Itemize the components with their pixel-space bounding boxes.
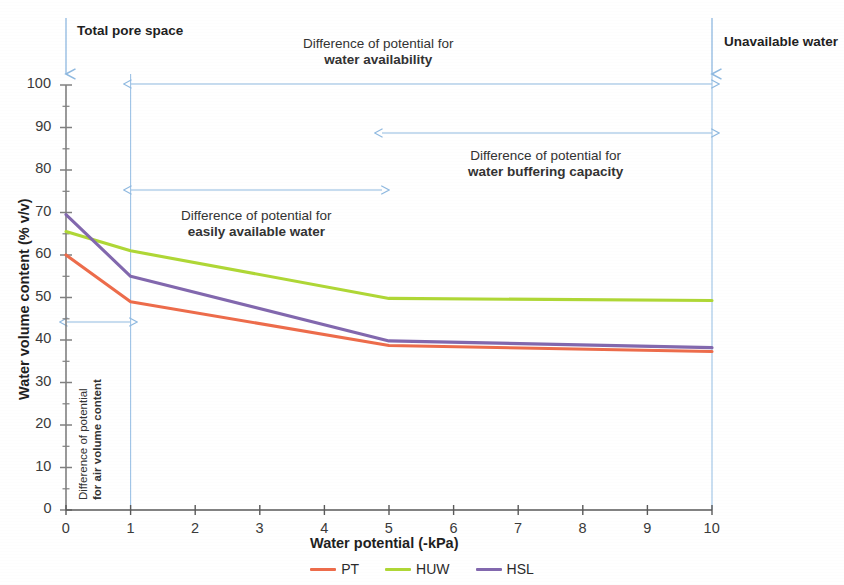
- y-tick-label: 10: [35, 458, 51, 474]
- annotation-water-availability-line2: water availability: [303, 52, 454, 68]
- annotation-water-buffering-capacity-line1: Difference of potential for: [468, 148, 623, 164]
- legend-label: HSL: [507, 561, 534, 577]
- legend-item-huw[interactable]: HUW: [385, 561, 449, 577]
- x-tick-label: 10: [704, 520, 720, 536]
- x-axis-title: Water potential (-kPa): [310, 535, 459, 553]
- annotation-easily-available-water-line2: easily available water: [181, 224, 332, 240]
- data-series-group: [66, 215, 712, 352]
- legend-label: HUW: [416, 561, 449, 577]
- legend-label: PT: [341, 561, 359, 577]
- legend-swatch-pt: [310, 568, 336, 571]
- x-tick-label: 8: [579, 520, 587, 536]
- annotation-water-availability: Difference of potential for water availa…: [303, 36, 454, 69]
- x-tick-label: 0: [62, 520, 70, 536]
- x-tick-label: 5: [385, 520, 393, 536]
- x-tick-label: 6: [449, 520, 457, 536]
- y-tick-label: 30: [35, 373, 51, 389]
- x-tick-label: 3: [256, 520, 264, 536]
- y-tick-label: 100: [27, 75, 51, 91]
- legend-item-hsl[interactable]: HSL: [476, 561, 534, 577]
- x-tick-label: 7: [514, 520, 522, 536]
- annotation-easily-available-water-line1: Difference of potential for: [181, 208, 332, 224]
- annotation-air-volume-content: Difference of potential for air volume c…: [76, 379, 105, 500]
- y-tick-label: 0: [44, 500, 52, 516]
- annotation-total-pore-space: Total pore space: [77, 23, 183, 39]
- annotation-air-volume-content-line1: Difference of potential: [76, 379, 90, 500]
- chart-figure: Water volume content (% v/v) Water poten…: [0, 0, 844, 585]
- legend-item-pt[interactable]: PT: [310, 561, 359, 577]
- y-tick-label: 20: [35, 415, 51, 431]
- annotation-water-buffering-capacity: Difference of potential for water buffer…: [468, 148, 623, 181]
- chart-canvas: [0, 0, 844, 585]
- x-tick-label: 2: [191, 520, 199, 536]
- x-axis: [66, 505, 712, 515]
- y-axis: [60, 85, 72, 510]
- chart-legend: PTHUWHSL: [0, 561, 844, 577]
- x-tick-label: 9: [643, 520, 651, 536]
- y-axis-title: Water volume content (% v/v): [16, 198, 34, 400]
- y-tick-label: 40: [35, 330, 51, 346]
- annotation-water-buffering-capacity-line2: water buffering capacity: [468, 164, 623, 180]
- annotation-unavailable-water: Unavailable water: [724, 34, 838, 50]
- annotation-water-availability-line1: Difference of potential for: [303, 36, 454, 52]
- data-line-pt: [66, 255, 712, 352]
- y-tick-label: 80: [35, 160, 51, 176]
- y-tick-label: 90: [35, 118, 51, 134]
- y-tick-label: 70: [35, 203, 51, 219]
- data-line-hsl: [66, 215, 712, 348]
- y-tick-label: 50: [35, 288, 51, 304]
- y-tick-label: 60: [35, 245, 51, 261]
- data-line-huw: [66, 232, 712, 301]
- x-tick-label: 1: [126, 520, 134, 536]
- legend-swatch-hsl: [476, 568, 502, 571]
- annotation-air-volume-content-line2: for air volume content: [90, 379, 104, 500]
- x-tick-label: 4: [320, 520, 328, 536]
- legend-swatch-huw: [385, 568, 411, 571]
- annotation-easily-available-water: Difference of potential for easily avail…: [181, 208, 332, 241]
